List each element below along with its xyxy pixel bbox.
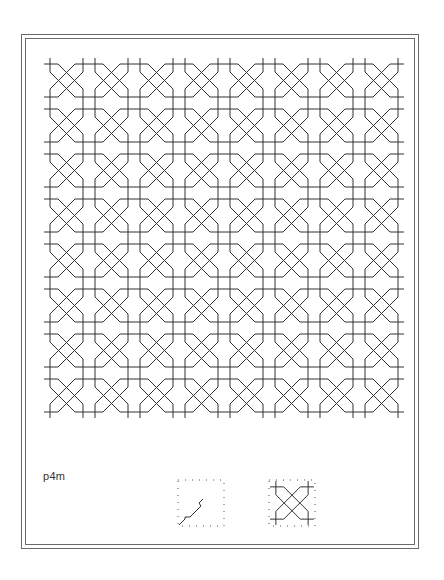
legend-diagrams xyxy=(0,0,444,580)
unit-cell-diagram xyxy=(269,480,315,526)
fundamental-region-diagram xyxy=(178,480,224,526)
figure-canvas: p4m xyxy=(0,0,444,580)
